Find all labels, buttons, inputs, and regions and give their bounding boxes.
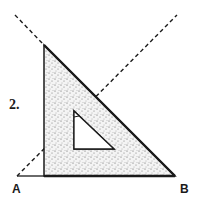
set-square-diagram: 2. A B <box>0 0 197 201</box>
point-a-label: A <box>12 182 21 196</box>
step-number-label: 2. <box>9 97 20 113</box>
diagram-canvas <box>0 0 197 201</box>
dashed-line-hypotenuse-extension <box>15 15 44 45</box>
point-b-label: B <box>180 182 189 196</box>
